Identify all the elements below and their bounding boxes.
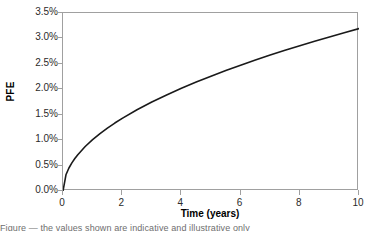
- x-tick-label: 2: [101, 197, 141, 208]
- plot-area: [62, 12, 358, 190]
- y-tick-mark: [57, 114, 62, 115]
- y-axis-title: PFE: [5, 82, 16, 102]
- x-tick-mark: [62, 190, 63, 195]
- x-tick-label: 8: [279, 197, 319, 208]
- x-tick-label: 10: [338, 197, 378, 208]
- y-tick-mark: [57, 88, 62, 89]
- x-tick-mark: [299, 190, 300, 195]
- y-tick-mark: [57, 63, 62, 64]
- y-tick-label: 0.5%: [16, 160, 58, 170]
- pfe-curve: [63, 29, 359, 191]
- y-tick-label: 1.5%: [16, 109, 58, 119]
- y-tick-label: 2.5%: [16, 58, 58, 68]
- clipped-caption-text: Figure — the values shown are indicative…: [0, 224, 382, 231]
- y-tick-label: 3.5%: [16, 7, 58, 17]
- plot-svg: [63, 13, 359, 191]
- y-tick-label: 2.0%: [16, 83, 58, 93]
- y-tick-mark: [57, 165, 62, 166]
- x-tick-mark: [180, 190, 181, 195]
- y-tick-label: 0.0%: [16, 185, 58, 195]
- x-tick-mark: [121, 190, 122, 195]
- y-tick-mark: [57, 139, 62, 140]
- y-tick-mark: [57, 37, 62, 38]
- chart-figure: PFE 0.0%0.5%1.0%1.5%2.0%2.5%3.0%3.5% Tim…: [0, 0, 382, 231]
- y-tick-label: 1.0%: [16, 134, 58, 144]
- x-tick-label: 6: [220, 197, 260, 208]
- y-tick-label: 3.0%: [16, 32, 58, 42]
- x-tick-label: 0: [42, 197, 82, 208]
- y-tick-mark: [57, 12, 62, 13]
- x-tick-label: 4: [160, 197, 200, 208]
- x-tick-mark: [358, 190, 359, 195]
- x-tick-mark: [240, 190, 241, 195]
- x-axis-title: Time (years): [62, 208, 358, 219]
- clipped-caption: Figure — the values shown are indicative…: [0, 224, 382, 231]
